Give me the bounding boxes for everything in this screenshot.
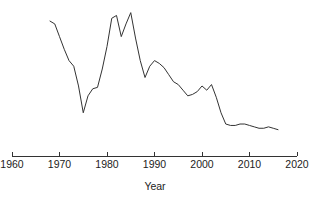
x-axis-ticks: 1960197019801990200020102020 — [0, 152, 309, 170]
x-axis-tick-label: 2010 — [238, 158, 262, 170]
x-axis-title: Year — [144, 180, 166, 192]
x-axis-tick-label: 1980 — [95, 158, 119, 170]
x-axis-tick-label: 2000 — [190, 158, 214, 170]
x-axis-tick-label: 2020 — [285, 158, 309, 170]
data-series-group — [50, 13, 278, 130]
line-chart-svg: 1960197019801990200020102020 Year — [0, 0, 317, 200]
series-line-path — [50, 13, 278, 130]
x-axis-tick-label: 1960 — [0, 158, 24, 170]
x-axis-group: 1960197019801990200020102020 — [0, 152, 309, 170]
x-axis-tick-label: 1970 — [48, 158, 72, 170]
x-axis-tick-label: 1990 — [143, 158, 167, 170]
chart-container: 1960197019801990200020102020 Year — [0, 0, 317, 200]
